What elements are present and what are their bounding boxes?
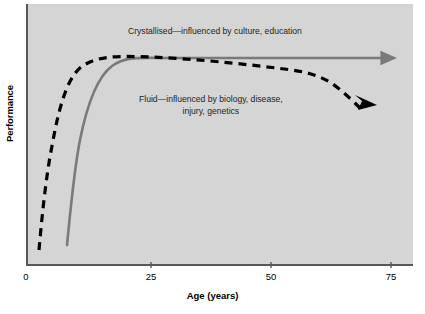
fluid-annotation: Fluid—influenced by biology, disease, in… [139,94,283,117]
x-tick-50: 50 [266,271,277,282]
fluid-annotation-line-2: injury, genetics [139,106,283,118]
intelligence-performance-chart: Performance 0 25 50 75 Age (years) Cryst… [0,0,425,314]
x-tick-0: 0 [23,271,28,282]
x-tick-25: 25 [146,271,157,282]
plot-area [26,4,413,266]
x-tick-75: 75 [386,271,397,282]
fluid-annotation-line-1: Fluid—influenced by biology, disease, [139,94,283,106]
crystallised-annotation: Crystallised—influenced by culture, educ… [128,26,302,38]
y-axis-title: Performance [4,62,15,166]
x-axis-title: Age (years) [0,290,425,301]
